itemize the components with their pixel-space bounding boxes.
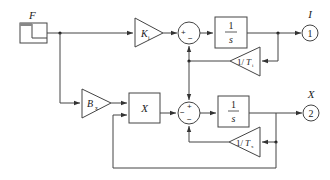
int-top-den: s	[229, 34, 233, 45]
gain-bx-main: B	[87, 98, 93, 109]
sum-bottom-sign-minus-bottom: −	[187, 115, 192, 124]
integrator-top-block[interactable]: 1 s	[215, 17, 247, 48]
wire-f-to-bx	[60, 33, 80, 103]
sum-top-sign-minus: −	[188, 34, 193, 43]
output-2-port: 2	[309, 108, 314, 119]
integrator-bottom-block[interactable]: 1 s	[218, 96, 249, 127]
output-2-label: X	[307, 88, 316, 100]
multiplier-label: X	[140, 102, 149, 114]
output-1-label: I	[307, 8, 313, 20]
output-port-1[interactable]: 1	[302, 25, 318, 41]
wire-out2-to-tx	[262, 113, 276, 142]
step-source-block[interactable]	[20, 23, 47, 43]
gain-ti-prefix: 1/	[237, 57, 245, 67]
source-label: F	[28, 9, 36, 21]
gain-bx-block[interactable]: B x	[82, 89, 111, 118]
gain-tx-prefix: 1/	[236, 138, 244, 148]
sum-junction-bottom[interactable]: + − −	[178, 102, 200, 124]
block-diagram: F K i + − 1 s 1 I 1/ T i	[0, 0, 330, 180]
multiplier-block[interactable]: X	[129, 93, 160, 123]
step-icon-fill	[20, 23, 32, 26]
int-bottom-num: 1	[231, 99, 236, 110]
wire-tx-to-sum2	[189, 126, 229, 142]
gain-inv-ti-block[interactable]: 1/ T i	[230, 47, 260, 76]
int-top-num: 1	[229, 20, 234, 31]
sum-junction-top[interactable]: + −	[178, 22, 200, 44]
sum-bottom-sign-minus-left: −	[180, 108, 185, 117]
sum-bottom-sign-plus: +	[187, 102, 192, 111]
output-1-port: 1	[308, 28, 313, 39]
int-bottom-den: s	[232, 113, 236, 124]
gain-inv-tx-block[interactable]: 1/ T x	[229, 127, 260, 157]
output-port-2[interactable]: 2	[303, 105, 319, 121]
wire-out1-to-ti	[262, 33, 278, 61]
gain-ki-block[interactable]: K i	[135, 18, 163, 47]
sum-top-sign-plus: +	[181, 28, 186, 37]
gain-bx-sub: x	[95, 105, 98, 111]
